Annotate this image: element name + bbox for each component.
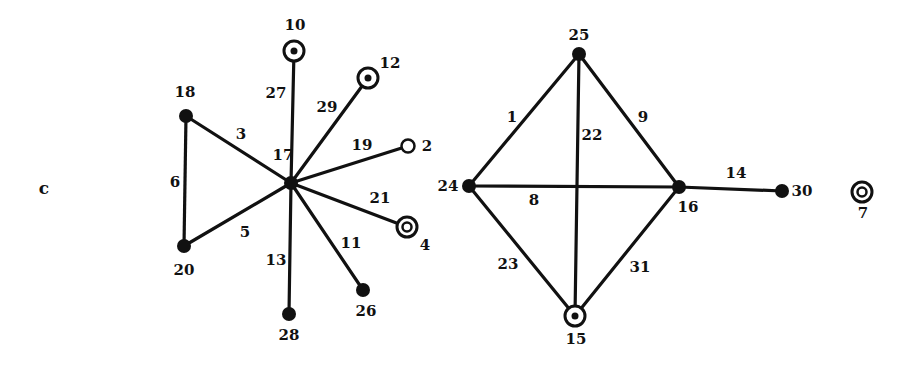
edge-label: 19 [352, 136, 373, 154]
node-label: 20 [174, 261, 195, 279]
node-7-icon [852, 182, 872, 202]
node-labels-layer: 171820101224262825241615307 [174, 16, 869, 348]
edge-1 [469, 54, 579, 186]
edge-label: 11 [341, 234, 362, 252]
edge-label: 13 [266, 251, 287, 269]
edge-label: 23 [498, 255, 519, 273]
edge-label: 22 [582, 126, 603, 144]
edge-29 [291, 78, 368, 183]
node-24-icon [462, 179, 476, 193]
edge-label: 21 [370, 189, 391, 207]
node-25-icon [572, 47, 586, 61]
node-26-icon [356, 283, 370, 297]
node-16-icon [672, 180, 686, 194]
node-17-icon [284, 176, 298, 190]
node-20-icon [177, 239, 191, 253]
edge-9 [579, 54, 679, 187]
node-label: 25 [569, 26, 590, 44]
node-2-icon [402, 140, 415, 153]
edge-label: 14 [726, 164, 747, 182]
node-15-icon [565, 306, 585, 326]
edge-label: 5 [240, 223, 250, 241]
edge-23 [469, 186, 575, 316]
graph-diagram: c 36527291921111319228233114 17182010122… [0, 0, 916, 370]
edge-label: 27 [266, 84, 287, 102]
node-label: 16 [678, 198, 699, 216]
node-label: 26 [356, 302, 377, 320]
node-label: 18 [175, 83, 196, 101]
node-label: 28 [279, 326, 300, 344]
edge-13 [289, 183, 291, 314]
node-label: 24 [438, 177, 459, 195]
node-28-icon [282, 307, 296, 321]
node-4-icon [397, 217, 417, 237]
edge-8 [469, 186, 679, 187]
node-label: 7 [858, 204, 868, 222]
edge-label: 8 [529, 191, 539, 209]
panel-label: c [39, 178, 49, 198]
edge-6 [184, 116, 186, 246]
node-18-icon [179, 109, 193, 123]
node-label: 10 [285, 16, 306, 34]
node-label: 2 [422, 137, 432, 155]
edge-label: 31 [630, 258, 651, 276]
node-10-icon [284, 41, 304, 61]
edge-5 [184, 183, 291, 246]
edge-19 [291, 146, 408, 183]
edge-label: 6 [170, 173, 180, 191]
edge-14 [679, 187, 782, 191]
edge-label: 3 [236, 125, 246, 143]
node-label: 30 [792, 182, 813, 200]
edge-label: 1 [507, 108, 517, 126]
node-12-icon [358, 68, 378, 88]
node-label: 12 [380, 54, 401, 72]
node-label: 4 [420, 236, 430, 254]
node-30-icon [775, 184, 789, 198]
edge-label: 29 [317, 98, 338, 116]
edge-label: 9 [638, 108, 648, 126]
node-label: 17 [273, 146, 294, 164]
node-label: 15 [566, 330, 587, 348]
edge-31 [575, 187, 679, 316]
